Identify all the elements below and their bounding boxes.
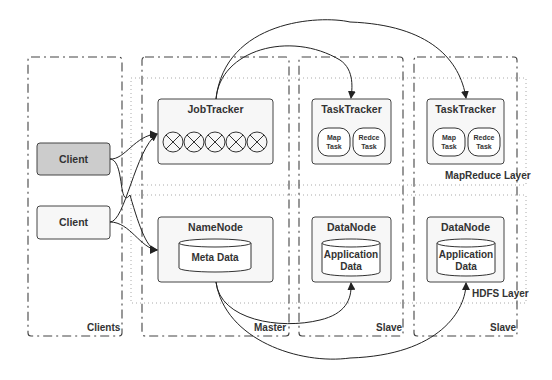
clients-zone-box bbox=[28, 57, 122, 336]
map-task-line2: Task bbox=[441, 143, 456, 150]
master-zone-label: Master bbox=[254, 322, 286, 333]
tasktracker-title-1: TaskTracker bbox=[312, 103, 391, 115]
appdata-line1: Application bbox=[439, 249, 493, 260]
map-task-label-1: MapTask bbox=[318, 134, 350, 151]
slave2-zone-label: Slave bbox=[490, 322, 516, 333]
clients-zone-label: Clients bbox=[87, 322, 120, 333]
hdfs-layer-label: HDFS Layer bbox=[472, 288, 529, 299]
client-label-1: Client bbox=[37, 153, 110, 165]
metadata-label: Meta Data bbox=[179, 252, 251, 264]
appdata-line2: Data bbox=[340, 261, 362, 272]
jobtracker-connectors bbox=[216, 20, 466, 99]
appdata-label-2: ApplicationData bbox=[437, 249, 495, 273]
datanode-title-2: DataNode bbox=[427, 221, 504, 233]
map-task-label-2: MapTask bbox=[433, 134, 465, 151]
reduce-task-label-2: RedceTask bbox=[468, 134, 500, 151]
jobtracker-title: JobTracker bbox=[158, 103, 273, 115]
slave1-zone-label: Slave bbox=[376, 322, 402, 333]
tasktracker-title-2: TaskTracker bbox=[427, 103, 504, 115]
map-task-line2: Task bbox=[326, 143, 341, 150]
namenode-connectors bbox=[216, 282, 466, 359]
reduce-task-line1: Redce bbox=[358, 134, 379, 141]
client-label-2: Client bbox=[37, 216, 110, 228]
map-task-line1: Map bbox=[327, 134, 341, 141]
map-task-line1: Map bbox=[442, 134, 456, 141]
appdata-line1: Application bbox=[324, 249, 378, 260]
mapreduce-layer-label: MapReduce Layer bbox=[445, 170, 531, 181]
reduce-task-line1: Redce bbox=[473, 134, 494, 141]
client-connectors bbox=[110, 134, 157, 250]
datanode-title-1: DataNode bbox=[312, 221, 391, 233]
namenode-title: NameNode bbox=[158, 221, 273, 233]
reduce-task-line2: Task bbox=[476, 143, 491, 150]
appdata-line2: Data bbox=[455, 261, 477, 272]
appdata-label-1: ApplicationData bbox=[322, 249, 380, 273]
reduce-task-label-1: RedceTask bbox=[353, 134, 385, 151]
reduce-task-line2: Task bbox=[361, 143, 376, 150]
